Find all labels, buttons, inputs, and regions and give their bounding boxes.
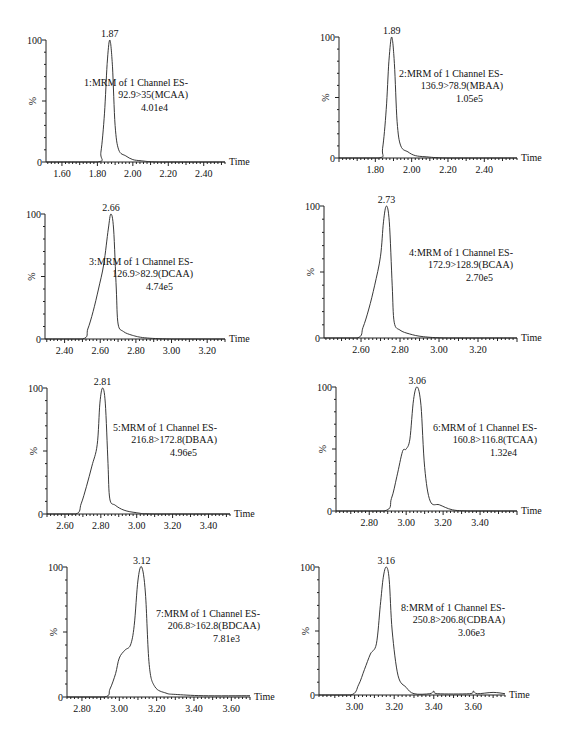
x-axis-label: Time xyxy=(254,691,275,702)
x-tick-label: 3.00 xyxy=(397,517,415,528)
x-tick-label: 2.40 xyxy=(56,345,74,356)
x-axis-label: Time xyxy=(229,333,250,344)
mrm-transition: 172.9>128.9(BCAA) xyxy=(428,259,513,271)
y-axis-label: % xyxy=(28,447,39,455)
intensity-value: 4.96e5 xyxy=(170,447,197,458)
chromatogram-panel-5: 2.602.803.003.203.400100%Time2.815:MRM o… xyxy=(28,376,255,531)
peak-retention-time-label: 3.16 xyxy=(378,555,396,566)
y-tick-label-100: 100 xyxy=(28,383,43,394)
y-axis-label: % xyxy=(27,97,38,105)
mrm-transition: 92.9>35(MCAA) xyxy=(118,89,188,101)
intensity-value: 1.32e4 xyxy=(490,447,517,458)
x-tick-label: 3.00 xyxy=(163,345,181,356)
peak-retention-time-label: 3.12 xyxy=(133,555,151,566)
intensity-value: 1.05e5 xyxy=(456,93,483,104)
y-tick-label-100: 100 xyxy=(320,32,335,43)
peak-retention-time-label: 2.81 xyxy=(94,376,112,387)
x-tick-label: 2.60 xyxy=(352,344,370,355)
x-tick-label: 3.20 xyxy=(469,344,487,355)
x-tick-label: 3.40 xyxy=(200,520,218,531)
x-tick-label: 3.20 xyxy=(164,520,182,531)
y-axis-label: % xyxy=(317,445,328,453)
x-tick-label: 2.00 xyxy=(403,164,421,175)
x-tick-label: 3.20 xyxy=(148,703,166,714)
x-axis-label: Time xyxy=(234,508,255,519)
y-axis-label: % xyxy=(300,627,311,635)
y-tick-label-0: 0 xyxy=(36,334,41,345)
x-tick-label: 2.60 xyxy=(91,345,109,356)
channel-title: 7:MRM of 1 Channel ES- xyxy=(156,608,260,619)
chromatogram-panel-6: 2.803.003.203.400100%Time3.066:MRM of 1 … xyxy=(317,375,542,528)
x-tick-label: 3.40 xyxy=(425,701,443,712)
chromatogram-panel-3: 2.402.602.803.003.200100%Time2.663:MRM o… xyxy=(26,202,250,356)
x-axis-label: Time xyxy=(521,152,542,163)
y-axis-label: % xyxy=(305,268,316,276)
x-axis-label: Time xyxy=(521,505,542,516)
y-axis-label: % xyxy=(26,272,37,280)
x-tick-label: 3.60 xyxy=(223,703,241,714)
x-tick-label: 2.40 xyxy=(195,168,213,179)
intensity-value: 4.74e5 xyxy=(146,281,173,292)
x-tick-label: 3.20 xyxy=(434,517,452,528)
mrm-transition: 136.9>78.9(MBAA) xyxy=(421,80,503,92)
y-tick-label-0: 0 xyxy=(58,692,63,703)
y-tick-label-100: 100 xyxy=(26,209,41,220)
x-tick-label: 2.80 xyxy=(360,517,378,528)
chromatogram-trace xyxy=(339,37,517,158)
x-tick-label: 3.40 xyxy=(185,703,203,714)
x-tick-label: 3.20 xyxy=(198,345,216,356)
y-tick-label-0: 0 xyxy=(330,153,335,164)
x-tick-label: 2.00 xyxy=(124,168,142,179)
x-tick-label: 3.00 xyxy=(111,703,129,714)
chromatogram-panel-4: 2.602.803.003.200100%Time2.734:MRM of 1 … xyxy=(305,194,542,355)
chromatogram-panel-2: 1.802.002.202.400100%Time1.892:MRM of 1 … xyxy=(320,25,542,175)
x-tick-label: 3.00 xyxy=(430,344,448,355)
x-tick-label: 1.60 xyxy=(53,168,71,179)
mrm-transition: 160.8>116.8(TCAA) xyxy=(453,434,537,446)
y-axis-label: % xyxy=(48,628,59,636)
x-tick-label: 2.60 xyxy=(56,520,74,531)
channel-title: 1:MRM of 1 Channel ES- xyxy=(84,77,188,88)
mrm-transition: 250.8>206.8(CDBAA) xyxy=(413,614,505,626)
x-tick-label: 2.80 xyxy=(73,703,91,714)
chromatogram-panel-8: 3.003.203.403.600100%Time3.168:MRM of 1 … xyxy=(300,555,530,712)
chromatogram-trace xyxy=(46,40,225,162)
x-tick-label: 3.20 xyxy=(385,701,403,712)
x-tick-label: 3.00 xyxy=(346,701,364,712)
x-tick-label: 1.80 xyxy=(89,168,107,179)
chromatogram-trace xyxy=(47,388,230,514)
peak-retention-time-label: 1.89 xyxy=(383,25,401,36)
x-tick-label: 2.40 xyxy=(476,164,494,175)
chromatogram-panel-1: 1.601.802.002.202.400100%Time1.871:MRM o… xyxy=(27,28,250,179)
channel-title: 5:MRM of 1 Channel ES- xyxy=(113,422,217,433)
channel-title: 3:MRM of 1 Channel ES- xyxy=(89,256,193,267)
y-tick-label-0: 0 xyxy=(327,506,332,517)
x-tick-label: 2.80 xyxy=(127,345,145,356)
y-tick-label-100: 100 xyxy=(317,382,332,393)
x-tick-label: 1.80 xyxy=(367,164,385,175)
x-axis-label: Time xyxy=(521,332,542,343)
intensity-value: 4.01e4 xyxy=(141,102,168,113)
intensity-value: 3.06e3 xyxy=(458,627,485,638)
x-tick-label: 2.20 xyxy=(160,168,178,179)
x-tick-label: 2.80 xyxy=(391,344,409,355)
y-tick-label-0: 0 xyxy=(310,690,315,701)
peak-retention-time-label: 1.87 xyxy=(101,28,119,39)
channel-title: 4:MRM of 1 Channel ES- xyxy=(409,247,513,258)
y-tick-label-100: 100 xyxy=(48,562,63,573)
x-axis-label: Time xyxy=(229,156,250,167)
chromatogram-grid: 1.601.802.002.202.400100%Time1.871:MRM o… xyxy=(0,0,568,741)
chromatogram-panel-7: 2.803.003.203.403.600100%Time3.127:MRM o… xyxy=(48,555,275,714)
y-tick-label-0: 0 xyxy=(315,333,320,344)
y-tick-label-100: 100 xyxy=(27,35,42,46)
peak-retention-time-label: 2.73 xyxy=(378,194,396,205)
chromatogram-figure: 1.601.802.002.202.400100%Time1.871:MRM o… xyxy=(0,0,568,741)
x-tick-label: 2.20 xyxy=(439,164,457,175)
y-tick-label-100: 100 xyxy=(305,201,320,212)
y-axis-label: % xyxy=(320,93,331,101)
mrm-transition: 206.8>162.8(BDCAA) xyxy=(168,620,260,632)
chromatogram-trace xyxy=(67,567,250,697)
x-tick-label: 2.80 xyxy=(92,520,110,531)
mrm-transition: 216.8>172.8(DBAA) xyxy=(131,434,217,446)
y-tick-label-100: 100 xyxy=(300,562,315,573)
